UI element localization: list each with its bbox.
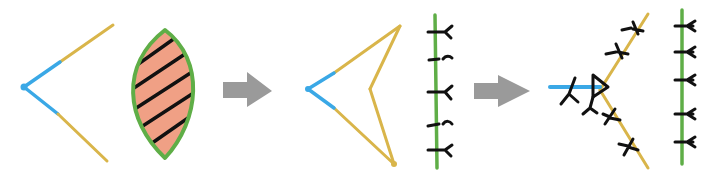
blue-linker-with-triangle — [550, 75, 608, 97]
panel-2 — [305, 15, 452, 168]
green-membrane-with-receptors — [428, 15, 452, 168]
arrow-1-icon — [223, 72, 272, 107]
diagram-svg — [0, 0, 718, 186]
arrow-2-icon — [474, 75, 530, 107]
open-v-shape — [21, 25, 114, 161]
hatched-leaf-shape — [128, 30, 193, 158]
green-membrane-with-receptors-final — [675, 10, 695, 164]
panel-1 — [21, 25, 194, 161]
closed-arrowhead-shape — [305, 26, 400, 167]
panel-3 — [550, 10, 695, 168]
diagram-canvas: Membrane remodeling sequence (hand-drawn… — [0, 0, 718, 186]
